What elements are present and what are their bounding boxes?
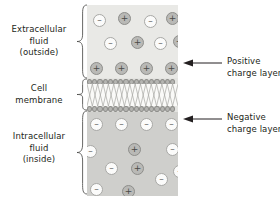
label-membrane-line2: membrane <box>2 95 76 107</box>
lipid-head-icon <box>97 106 102 112</box>
ion-negative: – <box>87 145 97 158</box>
minus-icon: – <box>145 16 156 27</box>
ion-negative: – <box>155 173 168 186</box>
ion-negative: – <box>104 37 117 50</box>
annotation-positive-line1: Positive <box>227 56 280 68</box>
ion-negative-layer: – <box>115 118 128 131</box>
minus-icon: – <box>167 144 178 155</box>
ion-positive-layer: + <box>90 62 103 75</box>
membrane-bilayer <box>87 78 178 112</box>
figure-canvas: Extracellular fluid (outside) Cell membr… <box>0 0 280 204</box>
label-intracellular-line1: Intracellular <box>2 131 76 143</box>
ion-positive: + <box>122 185 135 196</box>
minus-icon: – <box>156 174 167 185</box>
plus-icon: + <box>129 144 140 155</box>
lipid-head-icon <box>170 106 175 112</box>
lipid-tails-icon <box>87 84 178 106</box>
minus-icon: – <box>94 15 105 26</box>
minus-icon: – <box>105 38 116 49</box>
annotation-negative-line2: charge layer <box>227 124 280 136</box>
minus-icon: – <box>174 166 178 177</box>
plus-icon: + <box>119 13 130 24</box>
ion-positive: + <box>173 35 178 48</box>
ion-positive: + <box>131 162 144 175</box>
label-extracellular-line1: Extracellular <box>2 24 76 36</box>
ion-negative: – <box>90 183 103 196</box>
plus-icon: + <box>123 186 134 197</box>
label-extracellular-fluid: Extracellular fluid (outside) <box>2 24 76 59</box>
ion-positive: + <box>131 36 144 49</box>
label-intracellular-line3: (inside) <box>2 154 76 166</box>
label-extracellular-line2: fluid <box>2 36 76 48</box>
cell-diagram: – + – + – + – + + + + + <box>87 5 178 196</box>
ion-negative: – <box>154 37 167 50</box>
plus-icon: + <box>141 63 152 74</box>
minus-icon: – <box>141 119 152 130</box>
arrow-left-icon-negative <box>183 114 223 124</box>
plus-icon: + <box>132 163 143 174</box>
label-intracellular-line2: fluid <box>2 143 76 155</box>
ion-positive: + <box>166 12 178 25</box>
ion-positive-layer: + <box>165 62 178 75</box>
minus-icon: – <box>155 38 166 49</box>
minus-icon: – <box>166 119 177 130</box>
ion-negative: – <box>105 162 118 175</box>
ion-negative-layer: – <box>90 118 103 131</box>
label-intracellular-fluid: Intracellular fluid (inside) <box>2 131 76 166</box>
ion-positive: + <box>118 12 131 25</box>
lipid-head-icon <box>154 106 159 112</box>
ion-negative-layer: – <box>140 118 153 131</box>
ion-negative-layer: – <box>165 118 178 131</box>
lipid-head-row-inner <box>87 105 178 112</box>
label-membrane-line1: Cell <box>2 83 76 95</box>
lipid-tail-region <box>87 84 178 106</box>
plus-icon: + <box>91 63 102 74</box>
minus-icon: – <box>106 163 117 174</box>
annotation-positive-charge-layer: Positive charge layer <box>227 56 280 79</box>
plus-icon: + <box>116 63 127 74</box>
lipid-head-icon <box>103 106 108 112</box>
plus-icon: + <box>174 36 178 47</box>
label-extracellular-line3: (outside) <box>2 47 76 59</box>
ion-negative: – <box>144 15 157 28</box>
ion-negative: – <box>173 165 178 178</box>
minus-icon: – <box>91 184 102 195</box>
annotation-positive-line2: charge layer <box>227 68 280 80</box>
lipid-head-icon <box>129 106 134 112</box>
ion-positive-layer: + <box>140 62 153 75</box>
ion-positive: + <box>128 143 141 156</box>
lipid-head-icon <box>123 106 128 112</box>
ion-negative: – <box>93 14 106 27</box>
annotation-negative-line1: Negative <box>227 112 280 124</box>
ion-positive-layer: + <box>115 62 128 75</box>
annotation-negative-charge-layer: Negative charge layer <box>227 112 280 135</box>
minus-icon: – <box>116 119 127 130</box>
minus-icon: – <box>87 146 96 157</box>
plus-icon: + <box>132 37 143 48</box>
label-cell-membrane: Cell membrane <box>2 83 76 106</box>
plus-icon: + <box>167 13 178 24</box>
ion-negative: – <box>166 143 178 156</box>
minus-icon: – <box>91 119 102 130</box>
plus-icon: + <box>166 63 177 74</box>
arrow-left-icon-positive <box>183 58 223 68</box>
